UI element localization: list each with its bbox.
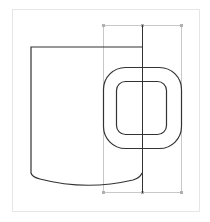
drawing-canvas[interactable] (0, 0, 210, 222)
artboard-frame (13, 10, 200, 212)
resize-handle-top-left[interactable] (102, 24, 105, 27)
resize-handle-top-right[interactable] (180, 24, 183, 27)
resize-handle-bottom-left[interactable] (102, 191, 105, 194)
resize-handle-bottom-right[interactable] (180, 191, 183, 194)
mug-handle-inner[interactable] (117, 82, 167, 135)
